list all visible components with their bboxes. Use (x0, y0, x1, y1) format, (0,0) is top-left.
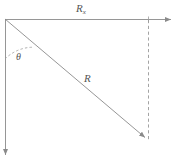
horizontal-component-label: Rx (76, 3, 86, 16)
horizontal-component-label-subscript: x (83, 8, 86, 16)
resultant-vector-arrow (5, 19, 145, 138)
resultant-vector-label: R (84, 73, 91, 84)
horizontal-component-label-base: R (76, 2, 83, 14)
angle-label: θ (16, 52, 21, 62)
vector-decomposition-figure: Rx R θ (0, 0, 180, 167)
